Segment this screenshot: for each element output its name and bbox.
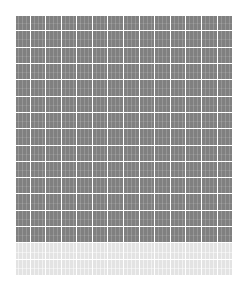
heatmap-cell[interactable] — [77, 211, 93, 227]
heatmap-cell[interactable] — [93, 129, 109, 145]
heatmap-cell[interactable] — [202, 97, 218, 113]
heatmap-cell[interactable] — [31, 260, 47, 276]
heatmap-cell[interactable] — [93, 113, 109, 129]
heatmap-cell[interactable] — [77, 227, 93, 243]
heatmap-cell[interactable] — [31, 129, 47, 145]
heatmap-cell[interactable] — [46, 129, 62, 145]
heatmap-cell[interactable] — [15, 227, 31, 243]
heatmap-cell[interactable] — [62, 48, 78, 64]
heatmap-cell[interactable] — [124, 243, 140, 259]
heatmap-cell[interactable] — [171, 31, 187, 47]
heatmap-cell[interactable] — [77, 48, 93, 64]
heatmap-cell[interactable] — [108, 31, 124, 47]
heatmap-cell[interactable] — [93, 162, 109, 178]
heatmap-cell[interactable] — [186, 113, 202, 129]
heatmap-cell[interactable] — [124, 260, 140, 276]
heatmap-cell[interactable] — [202, 211, 218, 227]
heatmap-cell[interactable] — [108, 260, 124, 276]
heatmap-cell[interactable] — [155, 113, 171, 129]
heatmap-cell[interactable] — [62, 162, 78, 178]
heatmap-cell[interactable] — [93, 260, 109, 276]
heatmap-cell[interactable] — [108, 113, 124, 129]
heatmap-cell[interactable] — [124, 97, 140, 113]
heatmap-cell[interactable] — [62, 129, 78, 145]
heatmap-cell[interactable] — [62, 178, 78, 194]
heatmap-cell[interactable] — [62, 243, 78, 259]
heatmap-cell[interactable] — [218, 80, 233, 96]
heatmap-cell[interactable] — [46, 227, 62, 243]
heatmap-cell[interactable] — [202, 48, 218, 64]
heatmap-cell[interactable] — [31, 113, 47, 129]
heatmap-cell[interactable] — [140, 113, 156, 129]
heatmap-cell[interactable] — [31, 227, 47, 243]
heatmap-cell[interactable] — [124, 31, 140, 47]
heatmap-cell[interactable] — [31, 178, 47, 194]
heatmap-cell[interactable] — [31, 243, 47, 259]
heatmap-cell[interactable] — [46, 146, 62, 162]
heatmap-cell[interactable] — [155, 15, 171, 31]
heatmap-cell[interactable] — [77, 146, 93, 162]
heatmap-cell[interactable] — [108, 194, 124, 210]
heatmap-cell[interactable] — [31, 31, 47, 47]
heatmap-cell[interactable] — [46, 64, 62, 80]
heatmap-cell[interactable] — [140, 31, 156, 47]
heatmap-cell[interactable] — [124, 211, 140, 227]
heatmap-cell[interactable] — [31, 48, 47, 64]
heatmap-cell[interactable] — [62, 227, 78, 243]
heatmap-cell[interactable] — [15, 31, 31, 47]
heatmap-cell[interactable] — [93, 64, 109, 80]
heatmap-cell[interactable] — [140, 97, 156, 113]
heatmap-cell[interactable] — [171, 178, 187, 194]
heatmap-cell[interactable] — [108, 64, 124, 80]
heatmap-cell[interactable] — [77, 162, 93, 178]
heatmap-cell[interactable] — [46, 194, 62, 210]
heatmap-cell[interactable] — [171, 80, 187, 96]
heatmap-cell[interactable] — [124, 15, 140, 31]
heatmap-cell[interactable] — [155, 178, 171, 194]
heatmap-cell[interactable] — [15, 178, 31, 194]
heatmap-cell[interactable] — [93, 15, 109, 31]
heatmap-cell[interactable] — [124, 64, 140, 80]
heatmap-cell[interactable] — [140, 64, 156, 80]
heatmap-cell[interactable] — [186, 211, 202, 227]
heatmap-cell[interactable] — [140, 260, 156, 276]
heatmap-cell[interactable] — [202, 113, 218, 129]
heatmap-cell[interactable] — [77, 243, 93, 259]
heatmap-cell[interactable] — [15, 243, 31, 259]
heatmap-cell[interactable] — [62, 146, 78, 162]
heatmap-cell[interactable] — [218, 31, 233, 47]
heatmap-cell[interactable] — [62, 113, 78, 129]
heatmap-cell[interactable] — [171, 64, 187, 80]
heatmap-cell[interactable] — [108, 227, 124, 243]
heatmap-cell[interactable] — [93, 178, 109, 194]
heatmap-cell[interactable] — [77, 113, 93, 129]
heatmap-cell[interactable] — [46, 48, 62, 64]
heatmap-cell[interactable] — [202, 162, 218, 178]
heatmap-cell[interactable] — [155, 211, 171, 227]
heatmap-cell[interactable] — [77, 178, 93, 194]
heatmap-cell[interactable] — [108, 80, 124, 96]
heatmap-cell[interactable] — [155, 80, 171, 96]
heatmap-cell[interactable] — [62, 97, 78, 113]
heatmap-cell[interactable] — [108, 146, 124, 162]
heatmap-cell[interactable] — [15, 113, 31, 129]
heatmap-cell[interactable] — [108, 162, 124, 178]
heatmap-cell[interactable] — [77, 80, 93, 96]
heatmap-cell[interactable] — [186, 48, 202, 64]
heatmap-cell[interactable] — [218, 211, 233, 227]
heatmap-cell[interactable] — [186, 227, 202, 243]
heatmap-cell[interactable] — [186, 129, 202, 145]
heatmap-cell[interactable] — [155, 243, 171, 259]
heatmap-cell[interactable] — [31, 146, 47, 162]
heatmap-cell[interactable] — [15, 80, 31, 96]
heatmap-cell[interactable] — [155, 64, 171, 80]
heatmap-cell[interactable] — [62, 194, 78, 210]
heatmap-cell[interactable] — [31, 97, 47, 113]
heatmap-cell[interactable] — [124, 48, 140, 64]
heatmap-cell[interactable] — [218, 129, 233, 145]
heatmap-cell[interactable] — [108, 15, 124, 31]
heatmap-cell[interactable] — [46, 243, 62, 259]
heatmap-cell[interactable] — [202, 260, 218, 276]
heatmap-cell[interactable] — [140, 162, 156, 178]
heatmap-cell[interactable] — [186, 178, 202, 194]
